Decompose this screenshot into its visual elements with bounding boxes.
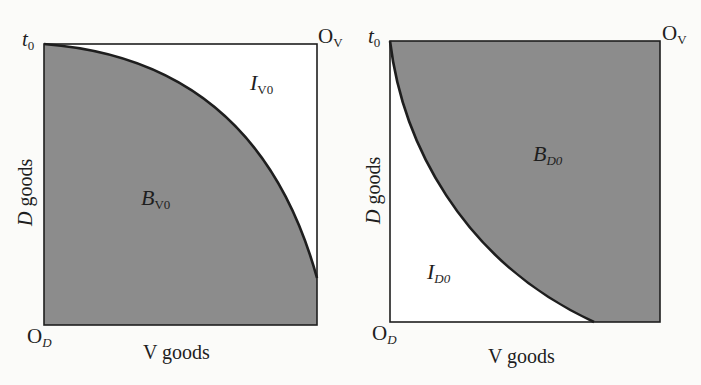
- diagram-canvas: [0, 0, 701, 385]
- right-corner-t0: t0: [368, 26, 380, 49]
- left-corner-t0: t0: [22, 29, 34, 52]
- left-region-iv0-label: IV0: [250, 72, 273, 96]
- left-corner-od: OD: [27, 326, 52, 349]
- right-corner-od: OD: [372, 323, 397, 346]
- left-corner-ov: OV: [318, 26, 343, 49]
- right-region-id0-label: ID0: [427, 261, 450, 285]
- right-y-axis-label: D goods: [363, 157, 383, 224]
- right-corner-ov: OV: [662, 23, 687, 46]
- left-y-axis-label: D goods: [15, 159, 35, 226]
- right-x-axis-label: V goods: [488, 346, 555, 366]
- left-panel: [44, 44, 317, 325]
- left-region-bv0-label: BV0: [141, 187, 170, 211]
- left-x-axis-label: V goods: [143, 342, 210, 362]
- right-region-bd0-label: BD0: [533, 143, 562, 167]
